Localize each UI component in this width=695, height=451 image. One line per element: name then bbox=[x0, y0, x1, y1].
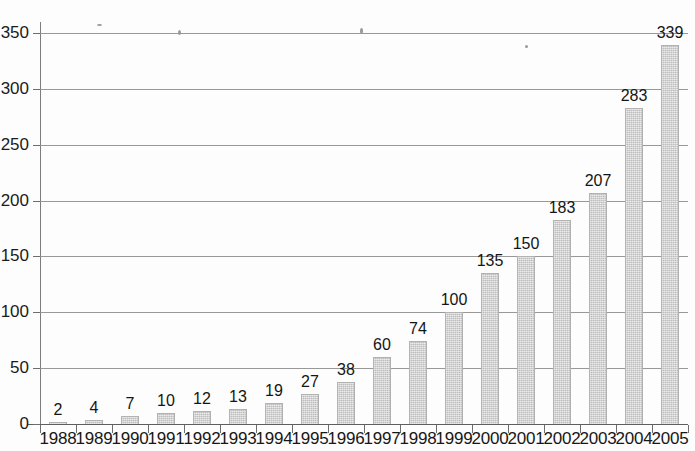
y-axis-tick-label: 250 bbox=[0, 135, 29, 155]
bar-value-label: 10 bbox=[157, 392, 175, 410]
y-axis-tick bbox=[33, 256, 40, 257]
y-axis-tick bbox=[33, 368, 40, 369]
bar bbox=[589, 193, 607, 424]
bar bbox=[409, 341, 427, 424]
x-axis-tick-label: 2004 bbox=[615, 429, 652, 449]
y-axis-tick bbox=[33, 201, 40, 202]
x-axis-tick-label: 2000 bbox=[471, 429, 508, 449]
bar bbox=[121, 416, 139, 424]
bar bbox=[157, 413, 175, 424]
x-axis-tick-label: 1998 bbox=[399, 429, 436, 449]
bar bbox=[481, 273, 499, 424]
bar bbox=[337, 382, 355, 424]
bar-value-label: 12 bbox=[193, 390, 211, 408]
x-axis-tick-label: 2002 bbox=[543, 429, 580, 449]
x-axis-tick-label: 2003 bbox=[579, 429, 616, 449]
bar bbox=[229, 409, 247, 424]
x-axis-tick-label: 1989 bbox=[75, 429, 112, 449]
x-axis-tick-label: 1997 bbox=[363, 429, 400, 449]
bar-value-label: 150 bbox=[513, 235, 540, 253]
y-axis-tick-label: 0 bbox=[0, 414, 29, 434]
bar-value-label: 13 bbox=[229, 388, 247, 406]
bar-value-label: 60 bbox=[373, 336, 391, 354]
bar-value-label: 38 bbox=[337, 361, 355, 379]
bar-value-label: 183 bbox=[549, 199, 576, 217]
x-axis-tick-label: 1991 bbox=[147, 429, 184, 449]
scan-speckle bbox=[97, 24, 102, 26]
bar bbox=[661, 45, 679, 424]
y-axis-tick-label: 150 bbox=[0, 246, 29, 266]
bar bbox=[517, 256, 535, 424]
bar bbox=[625, 108, 643, 424]
x-axis-tick-label: 2005 bbox=[651, 429, 688, 449]
bar-value-label: 2 bbox=[54, 401, 63, 419]
x-axis-tick-label: 1994 bbox=[255, 429, 292, 449]
bar-value-label: 4 bbox=[90, 399, 99, 417]
bar-value-label: 339 bbox=[657, 24, 684, 42]
x-axis-tick-label: 2001 bbox=[507, 429, 544, 449]
bar-value-label: 135 bbox=[477, 252, 504, 270]
bar bbox=[373, 357, 391, 424]
bar-value-label: 74 bbox=[409, 320, 427, 338]
bar-value-label: 7 bbox=[126, 395, 135, 413]
x-axis-tick-label: 1996 bbox=[327, 429, 364, 449]
x-axis-line bbox=[28, 424, 688, 425]
y-axis-tick bbox=[33, 424, 40, 425]
y-axis-tick bbox=[33, 33, 40, 34]
bar-value-label: 19 bbox=[265, 382, 283, 400]
y-axis-tick bbox=[33, 145, 40, 146]
x-axis-tick-label: 1993 bbox=[219, 429, 256, 449]
bar bbox=[193, 411, 211, 424]
y-axis-tick bbox=[33, 89, 40, 90]
x-axis-tick-label: 1992 bbox=[183, 429, 220, 449]
bar-chart: 050100150200250300350 247101213192738607… bbox=[0, 0, 695, 451]
bar-value-label: 100 bbox=[441, 291, 468, 309]
x-axis-tick-label: 1995 bbox=[291, 429, 328, 449]
y-axis-tick-label: 50 bbox=[0, 358, 29, 378]
bar-value-label: 283 bbox=[621, 87, 648, 105]
x-axis-tick-label: 1990 bbox=[111, 429, 148, 449]
bar bbox=[49, 422, 67, 424]
y-axis-tick-label: 200 bbox=[0, 191, 29, 211]
y-axis-tick-label: 100 bbox=[0, 302, 29, 322]
x-axis-tick-label: 1988 bbox=[39, 429, 76, 449]
bar bbox=[553, 220, 571, 424]
bar bbox=[445, 312, 463, 424]
bar-value-label: 27 bbox=[301, 373, 319, 391]
y-axis-tick-label: 300 bbox=[0, 79, 29, 99]
y-axis-tick bbox=[33, 312, 40, 313]
bar bbox=[301, 394, 319, 424]
x-axis-tick-label: 1999 bbox=[435, 429, 472, 449]
y-axis-tick-label: 350 bbox=[0, 23, 29, 43]
bar-value-label: 207 bbox=[585, 172, 612, 190]
bar bbox=[265, 403, 283, 424]
bar bbox=[85, 420, 103, 424]
plot-area: 2471012131927386074100135150183207283339 bbox=[40, 33, 688, 424]
